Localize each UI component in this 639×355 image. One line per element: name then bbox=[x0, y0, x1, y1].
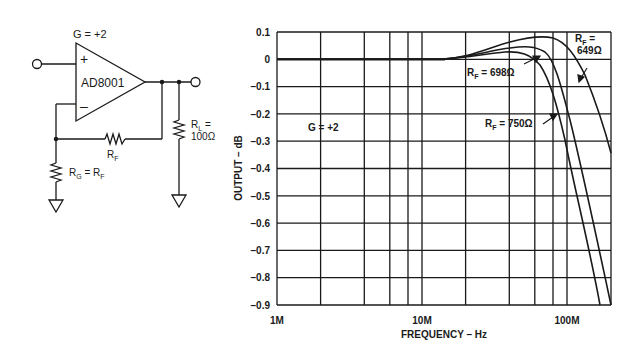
ground-icon bbox=[49, 200, 63, 212]
opamp-label: AD8001 bbox=[81, 76, 125, 90]
gain-annotation: G = +2 bbox=[308, 122, 339, 133]
rl-resistor-icon bbox=[174, 120, 184, 139]
curve-rf-750 bbox=[277, 52, 600, 305]
svg-text:1M: 1M bbox=[270, 315, 284, 326]
svg-text:–0.3: –0.3 bbox=[251, 136, 271, 147]
svg-text:–0.1: –0.1 bbox=[251, 81, 271, 92]
svg-text:–0.2: –0.2 bbox=[251, 109, 271, 120]
svg-text:–0.7: –0.7 bbox=[251, 245, 271, 256]
rg-label: RG = RF bbox=[69, 167, 105, 180]
svg-text:–0.5: –0.5 bbox=[251, 191, 271, 202]
schematic bbox=[33, 43, 201, 212]
input-terminal-icon bbox=[33, 60, 42, 69]
svg-text:–0.9: –0.9 bbox=[251, 300, 271, 311]
gain-label: G = +2 bbox=[73, 28, 107, 40]
y-axis-label: OUTPUT – dB bbox=[233, 135, 244, 201]
svg-text:–0.6: –0.6 bbox=[251, 218, 271, 229]
rf-698-label: RF = 698Ω bbox=[467, 67, 515, 80]
svg-text:–0.4: –0.4 bbox=[251, 163, 271, 174]
rf-resistor-icon bbox=[105, 134, 125, 144]
svg-text:–0.8: –0.8 bbox=[251, 272, 271, 283]
svg-text:10M: 10M bbox=[412, 315, 431, 326]
rg-resistor-icon bbox=[51, 163, 61, 182]
output-terminal-icon bbox=[191, 78, 200, 87]
curves bbox=[277, 37, 611, 305]
svg-text:100M: 100M bbox=[554, 315, 579, 326]
curve-rf-649 bbox=[277, 37, 611, 153]
minus-sign: – bbox=[80, 98, 88, 114]
rl-value: 100Ω bbox=[191, 131, 216, 142]
plus-sign: + bbox=[80, 51, 88, 67]
figure: G = +2 + – AD8001 RF RG = RF RL = 100Ω bbox=[0, 0, 639, 355]
svg-text:0: 0 bbox=[264, 54, 270, 65]
rf-649-value: 649Ω bbox=[577, 45, 602, 56]
curve-rf-698 bbox=[277, 47, 611, 305]
ground-icon bbox=[172, 195, 186, 207]
x-axis-label: FREQUENCY – Hz bbox=[401, 329, 487, 340]
y-axis-ticks: 0.1 0 –0.1 –0.2 –0.3 –0.4 –0.5 –0.6 –0.7… bbox=[251, 27, 271, 311]
rf-label: RF bbox=[107, 149, 119, 162]
grid bbox=[277, 32, 611, 305]
x-axis-ticks: 1M 10M 100M bbox=[270, 315, 579, 326]
svg-text:0.1: 0.1 bbox=[256, 27, 270, 38]
chart: 0.1 0 –0.1 –0.2 –0.3 –0.4 –0.5 –0.6 –0.7… bbox=[233, 27, 611, 340]
